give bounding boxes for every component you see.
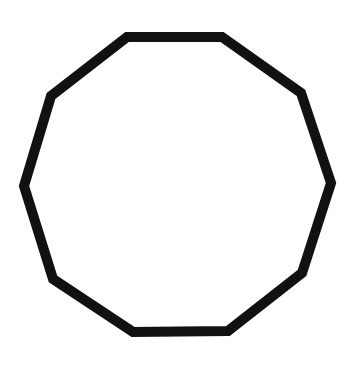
decagon-outline	[24, 37, 331, 332]
decagon-figure	[0, 0, 362, 367]
figure-canvas	[0, 0, 362, 367]
